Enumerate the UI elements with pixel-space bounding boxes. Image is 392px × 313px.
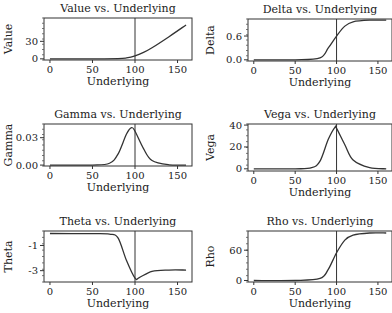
y-tick-label: -3 — [28, 265, 38, 276]
x-axis-label: Underlying — [289, 297, 352, 310]
y-tick-label: 30 — [25, 36, 38, 47]
data-line — [254, 20, 386, 60]
chart-title: Delta vs. Underlying — [263, 3, 378, 16]
chart-title: Theta vs. Underlying — [60, 215, 177, 228]
data-line — [50, 25, 186, 59]
x-tick-label: 150 — [368, 175, 387, 186]
y-axis-label: Gamma — [2, 123, 15, 166]
data-line — [50, 234, 186, 280]
plot-frame — [44, 18, 192, 60]
x-axis-label: Underlying — [289, 76, 352, 89]
y-tick-label: 40 — [229, 120, 242, 131]
chart-rho: Rho vs. Underlying050100150060Underlying… — [204, 215, 392, 310]
chart-vega: Vega vs. Underlying05010015002040Underly… — [204, 108, 392, 199]
y-axis-label: Value — [2, 24, 15, 56]
x-tick-label: 150 — [368, 65, 387, 76]
x-axis-label: Underlying — [87, 75, 150, 88]
x-tick-label: 50 — [289, 175, 302, 186]
y-tick-label: 60 — [229, 245, 242, 256]
x-tick-label: 100 — [327, 286, 346, 297]
plot-frame — [44, 124, 192, 166]
y-tick-label: 20 — [229, 141, 242, 152]
x-tick-label: 100 — [125, 286, 144, 297]
y-axis-label: Delta — [204, 25, 217, 55]
data-line — [254, 126, 386, 169]
y-tick-label: 0.0 — [226, 54, 242, 65]
x-axis-label: Underlying — [289, 186, 352, 199]
x-tick-label: 100 — [125, 64, 144, 75]
chart-theta: Theta vs. Underlying050100150-1-3Underly… — [2, 215, 192, 310]
x-tick-label: 0 — [47, 170, 53, 181]
y-tick-label: 0 — [236, 163, 242, 174]
x-tick-label: 50 — [289, 286, 302, 297]
y-tick-label: -1 — [28, 240, 38, 251]
chart-delta: Delta vs. Underlying0501001500.00.6Under… — [204, 3, 392, 89]
data-line — [50, 128, 186, 166]
plot-frame — [248, 124, 392, 171]
x-tick-label: 150 — [168, 286, 187, 297]
x-tick-label: 150 — [368, 286, 387, 297]
y-axis-label: Vega — [204, 134, 217, 162]
x-tick-label: 0 — [251, 175, 257, 186]
x-tick-label: 0 — [47, 286, 53, 297]
chart-title: Gamma vs. Underlying — [54, 108, 182, 121]
chart-title: Rho vs. Underlying — [267, 215, 374, 228]
y-tick-label: 0 — [32, 53, 38, 64]
y-tick-label: 0.00 — [16, 160, 38, 171]
greeks-chart-grid: Value vs. Underlying050100150030Underlyi… — [0, 0, 392, 313]
y-tick-label: 0 — [236, 275, 242, 286]
chart-title: Vega vs. Underlying — [263, 108, 376, 121]
x-tick-label: 0 — [251, 286, 257, 297]
y-axis-label: Rho — [204, 245, 217, 267]
x-tick-label: 100 — [327, 65, 346, 76]
x-tick-label: 150 — [168, 64, 187, 75]
x-tick-label: 0 — [47, 64, 53, 75]
x-tick-label: 100 — [327, 175, 346, 186]
x-axis-label: Underlying — [87, 297, 150, 310]
plot-frame — [248, 19, 392, 61]
x-tick-label: 50 — [86, 286, 99, 297]
y-tick-label: 0.6 — [226, 31, 242, 42]
x-axis-label: Underlying — [87, 181, 150, 194]
x-tick-label: 150 — [168, 170, 187, 181]
plot-frame — [248, 231, 392, 282]
y-axis-label: Theta — [2, 240, 15, 272]
chart-gamma: Gamma vs. Underlying0501001500.000.03Und… — [2, 108, 192, 194]
x-tick-label: 0 — [251, 65, 257, 76]
x-tick-label: 50 — [86, 170, 99, 181]
x-tick-label: 100 — [125, 170, 144, 181]
x-tick-label: 50 — [289, 65, 302, 76]
chart-title: Value vs. Underlying — [59, 2, 176, 15]
y-tick-label: 0.03 — [16, 132, 38, 143]
x-tick-label: 50 — [86, 64, 99, 75]
data-line — [254, 233, 386, 281]
chart-value: Value vs. Underlying050100150030Underlyi… — [2, 2, 192, 88]
